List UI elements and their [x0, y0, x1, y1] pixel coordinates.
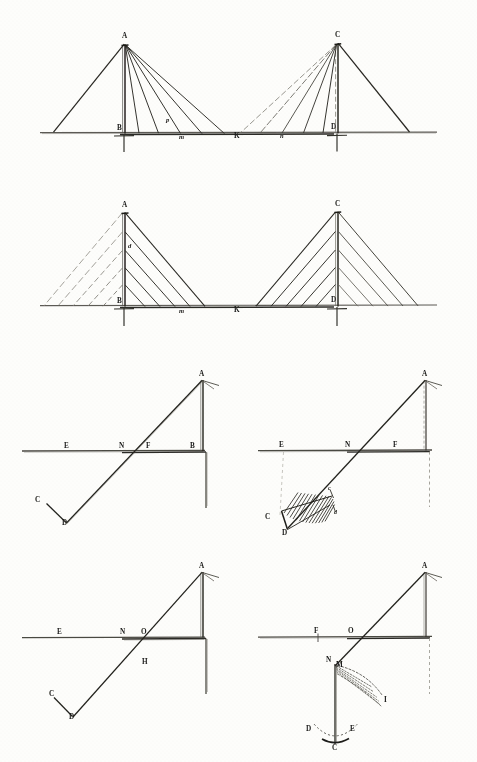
fig-2-label-C: C	[335, 200, 340, 208]
fig-4-label-F: F	[393, 441, 398, 449]
fig-2-label-K: K	[234, 306, 240, 314]
fig-4-label-A: A	[422, 370, 428, 378]
fig-3-label-E: E	[64, 442, 69, 450]
fig-2-label-D: D	[331, 296, 336, 304]
fig-5-label-E: E	[57, 628, 62, 636]
fig-3-label-F: F	[146, 442, 151, 450]
fig-3-label-B: B	[190, 442, 195, 450]
fig-3-label-N: N	[119, 442, 125, 450]
fig-1-label-D: D	[331, 123, 336, 131]
fig-4-label-E: E	[279, 441, 284, 449]
fig-5-label-H: H	[142, 658, 148, 666]
fig-6-label-I: I	[384, 696, 387, 704]
fig-2-label-m: m	[179, 307, 184, 314]
fig-4-label-C: C	[265, 513, 270, 521]
fig-2-label-B: B	[117, 297, 122, 305]
fig-5-label-C: C	[49, 690, 54, 698]
fig-6-label-O: O	[348, 627, 354, 635]
fig-1-label-K: K	[234, 132, 240, 140]
plate-background	[0, 0, 477, 762]
fig-6-label-F: F	[314, 627, 319, 635]
fig-1-label-p: p	[165, 116, 170, 123]
fig-6-label-N: N	[326, 656, 332, 664]
fig-4-label-N: N	[345, 441, 351, 449]
fig-3-label-C: C	[35, 496, 40, 504]
fig-3-label-A: A	[199, 370, 205, 378]
fig-1-label-B: B	[117, 124, 122, 132]
engineering-plate: A C B D m K n p	[0, 0, 477, 762]
fig-5-label-O: O	[141, 628, 147, 636]
fig-2-label-A: A	[122, 201, 128, 209]
fig-1-label-m: m	[179, 133, 184, 140]
fig-5-label-D: D	[69, 713, 74, 721]
fig-6-label-M: M	[336, 661, 343, 669]
fig-6-label-A: A	[422, 562, 428, 570]
fig-5-label-N: N	[120, 628, 126, 636]
fig-6-label-C: C	[332, 744, 337, 752]
fig-1-label-A: A	[122, 32, 128, 40]
fig-4-label-c-lower: c	[328, 485, 331, 491]
fig-1-label-n: n	[280, 132, 284, 139]
fig-1-label-C: C	[335, 31, 340, 39]
fig-6-label-E: E	[350, 725, 355, 733]
fig-3-label-D: D	[62, 519, 67, 527]
fig-4-label-D: D	[282, 529, 287, 537]
fig-5-label-A: A	[199, 562, 205, 570]
fig-6-label-D: D	[306, 725, 311, 733]
